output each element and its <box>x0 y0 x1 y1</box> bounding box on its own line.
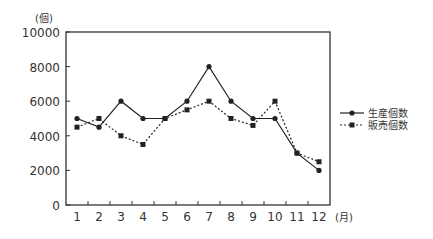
x-tick-label: 2 <box>95 210 103 224</box>
series-line-1 <box>77 67 319 171</box>
square-marker <box>185 107 190 112</box>
square-marker <box>273 99 278 104</box>
line-chart: 0200040006000800010000(個)123456789101112… <box>0 0 433 239</box>
legend-diamond-icon <box>349 110 354 115</box>
x-axis-unit: (月) <box>335 212 353 223</box>
x-tick-label: 7 <box>205 210 213 224</box>
legend-label-2: 販売個数 <box>368 119 408 131</box>
square-marker <box>141 142 146 147</box>
square-marker <box>229 116 234 121</box>
diamond-marker <box>96 125 101 130</box>
legend-square-icon <box>350 123 355 128</box>
square-marker <box>295 151 300 156</box>
x-tick-label: 11 <box>289 210 304 224</box>
diamond-marker <box>316 168 321 173</box>
y-axis-unit: (個) <box>35 12 53 24</box>
y-tick-label: 2000 <box>29 164 60 178</box>
diamond-marker <box>118 99 123 104</box>
square-marker <box>207 99 212 104</box>
diamond-marker <box>74 116 79 121</box>
square-marker <box>97 116 102 121</box>
square-marker <box>119 133 124 138</box>
diamond-marker <box>228 99 233 104</box>
square-marker <box>251 123 256 128</box>
legend-label-1: 生産個数 <box>368 107 408 119</box>
x-tick-label: 8 <box>227 210 235 224</box>
square-marker <box>163 116 168 121</box>
diamond-marker <box>140 116 145 121</box>
x-tick-label: 3 <box>117 210 125 224</box>
diamond-marker <box>272 116 277 121</box>
square-marker <box>317 159 322 164</box>
y-tick-label: 6000 <box>29 95 60 109</box>
x-tick-label: 1 <box>73 210 81 224</box>
x-tick-label: 5 <box>161 210 169 224</box>
y-tick-label: 4000 <box>29 130 60 144</box>
diamond-marker <box>250 116 255 121</box>
y-tick-label: 10000 <box>22 26 60 40</box>
x-tick-label: 4 <box>139 210 147 224</box>
diamond-marker <box>184 99 189 104</box>
x-tick-label: 12 <box>311 210 326 224</box>
x-tick-label: 9 <box>249 210 257 224</box>
diamond-marker <box>206 64 211 69</box>
y-tick-label: 0 <box>52 199 60 213</box>
x-tick-label: 6 <box>183 210 191 224</box>
y-tick-label: 8000 <box>29 61 60 75</box>
x-tick-label: 10 <box>267 210 282 224</box>
square-marker <box>75 125 80 130</box>
